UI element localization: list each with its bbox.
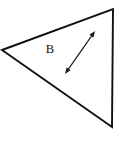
figure-canvas: B (0, 0, 126, 156)
geometry-diagram: B (0, 0, 126, 156)
region-label-b: B (46, 42, 54, 56)
